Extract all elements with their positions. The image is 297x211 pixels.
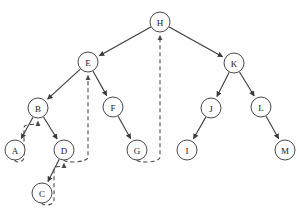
node-circle-g bbox=[127, 140, 147, 160]
tree-edge-j-i bbox=[193, 117, 205, 139]
graph-node-l[interactable]: L bbox=[251, 97, 271, 117]
node-circle-d bbox=[54, 140, 74, 160]
tree-edge-b-d bbox=[44, 117, 58, 139]
graph-canvas: HEKBFJLADGIMC bbox=[0, 0, 297, 211]
graph-node-d[interactable]: D bbox=[54, 140, 74, 160]
graph-node-i[interactable]: I bbox=[177, 140, 197, 160]
graph-node-h[interactable]: H bbox=[150, 12, 170, 32]
node-circle-l bbox=[251, 97, 271, 117]
graph-node-m[interactable]: M bbox=[275, 140, 295, 160]
tree-edge-k-j bbox=[217, 72, 229, 96]
graph-node-g[interactable]: G bbox=[127, 140, 147, 160]
graph-node-f[interactable]: F bbox=[103, 97, 123, 117]
node-circle-b bbox=[28, 98, 48, 118]
tree-edge-e-f bbox=[93, 71, 107, 95]
tree-edge-e-b bbox=[48, 69, 81, 99]
dfs-tree-figure: HEKBFJLADGIMC bbox=[0, 0, 297, 211]
graph-node-j[interactable]: J bbox=[201, 98, 221, 118]
node-circle-e bbox=[78, 52, 98, 72]
tree-edge-k-l bbox=[239, 72, 254, 96]
node-layer: HEKBFJLADGIMC bbox=[5, 12, 295, 203]
tree-edge-l-m bbox=[266, 116, 279, 138]
graph-node-a[interactable]: A bbox=[5, 140, 25, 160]
node-circle-h bbox=[150, 12, 170, 32]
tree-edge-h-k bbox=[169, 27, 222, 57]
node-circle-m bbox=[275, 140, 295, 160]
tree-edge-b-a bbox=[21, 117, 33, 138]
graph-node-c[interactable]: C bbox=[32, 183, 52, 203]
graph-node-e[interactable]: E bbox=[78, 52, 98, 72]
node-circle-k bbox=[224, 53, 244, 73]
node-circle-f bbox=[103, 97, 123, 117]
graph-node-b[interactable]: B bbox=[28, 98, 48, 118]
node-circle-i bbox=[177, 140, 197, 160]
graph-node-k[interactable]: K bbox=[224, 53, 244, 73]
node-circle-j bbox=[201, 98, 221, 118]
node-circle-c bbox=[32, 183, 52, 203]
tree-edge-f-g bbox=[118, 116, 131, 138]
tree-edge-h-e bbox=[99, 27, 150, 56]
node-circle-a bbox=[5, 140, 25, 160]
